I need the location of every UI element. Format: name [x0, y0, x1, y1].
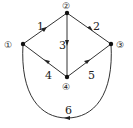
- graph-diagram: ① ② ③ ④ 1 2 3 4 5 6: [0, 0, 133, 128]
- node-label-3: ③: [116, 40, 124, 50]
- edge-label-4: 4: [45, 69, 52, 82]
- edge-label-5: 5: [88, 69, 95, 82]
- node-label-2: ②: [62, 1, 70, 11]
- node-1: [21, 42, 25, 46]
- edge-label-6: 6: [65, 104, 72, 117]
- edge-label-3: 3: [59, 39, 66, 52]
- edge-label-1: 1: [37, 20, 44, 33]
- node-label-4: ④: [62, 82, 70, 92]
- node-label-1: ①: [4, 40, 12, 50]
- node-2: [65, 11, 69, 15]
- node-3: [109, 42, 113, 46]
- edge-label-2: 2: [93, 20, 100, 33]
- node-4: [65, 75, 69, 79]
